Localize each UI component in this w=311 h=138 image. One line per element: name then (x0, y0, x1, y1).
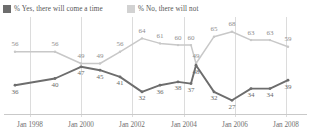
data-point (54, 51, 56, 53)
value-label: 49 (97, 53, 104, 60)
value-label: 61 (157, 33, 164, 40)
data-point (250, 39, 252, 41)
legend-item-no: % No, there will not (127, 2, 199, 15)
legend-label-no: % No, there will not (138, 5, 199, 13)
value-label: 32 (139, 95, 146, 102)
data-point (141, 37, 143, 39)
data-point (159, 84, 162, 87)
data-point (250, 87, 253, 90)
value-label: 34 (267, 92, 274, 99)
legend-label-yes: % Yes, there will come a time (14, 5, 103, 13)
value-label: 40 (52, 82, 59, 89)
value-label: 59 (285, 36, 292, 43)
data-point (190, 82, 193, 85)
value-label: 65 (211, 26, 218, 33)
data-point (99, 62, 101, 64)
value-label: 63 (248, 30, 255, 37)
value-label: 27 (229, 104, 236, 111)
data-point (269, 39, 271, 41)
data-point (231, 99, 234, 102)
value-label: 56 (12, 41, 19, 48)
value-label: 45 (97, 74, 104, 81)
value-label: 32 (211, 95, 218, 102)
data-point (287, 79, 290, 82)
x-axis-line (4, 114, 307, 115)
chart-legend: % Yes, there will come a time % No, ther… (0, 2, 311, 16)
data-point (80, 65, 83, 68)
x-tick-label: Jan 1998 (17, 121, 43, 129)
data-point (190, 44, 192, 46)
data-point (287, 46, 289, 48)
x-tick-label: Jan 2006 (222, 121, 248, 129)
data-point (14, 51, 16, 53)
x-tick-label: Jan 2004 (171, 121, 197, 129)
value-label: 49 (78, 53, 85, 60)
data-point (195, 64, 198, 67)
light-square-icon (127, 5, 135, 13)
data-point (54, 77, 57, 80)
data-point (269, 87, 272, 90)
data-point (159, 42, 161, 44)
x-tick-label: Jan 2008 (273, 121, 299, 129)
value-label: 56 (52, 41, 59, 48)
value-label: 36 (12, 89, 19, 96)
value-label: 56 (117, 41, 124, 48)
value-label: 36 (157, 89, 164, 96)
line-chart: % Yes, there will come a time % No, ther… (0, 0, 311, 138)
data-point (14, 84, 17, 87)
value-label: 60 (188, 35, 195, 42)
data-point (99, 69, 102, 72)
x-tick-label: Jan 2000 (68, 121, 94, 129)
data-point (119, 51, 121, 53)
data-point (177, 81, 180, 84)
data-point (177, 44, 179, 46)
x-tick-label: Jan 2002 (119, 121, 145, 129)
value-label: 64 (139, 28, 146, 35)
data-point (80, 62, 82, 64)
value-label: 38 (175, 85, 182, 92)
value-label: 41 (117, 80, 124, 87)
value-label: 68 (229, 21, 236, 28)
x-axis: Jan 1998Jan 2000Jan 2002Jan 2004Jan 2006… (0, 114, 311, 138)
data-point (213, 91, 216, 94)
plot-svg (0, 17, 311, 118)
legend-item-yes: % Yes, there will come a time (3, 2, 103, 15)
value-label: 60 (175, 35, 182, 42)
value-label: 48 (193, 69, 200, 76)
value-label: 34 (248, 92, 255, 99)
plot-area: 5656494956646160604965686363593640474541… (0, 17, 311, 118)
data-point (213, 36, 215, 38)
value-label: 63 (267, 30, 274, 37)
value-label: 47 (78, 70, 85, 77)
data-point (141, 91, 144, 94)
dark-square-icon (3, 5, 11, 13)
value-label: 37 (188, 87, 195, 94)
value-label: 39 (285, 84, 292, 91)
data-point (231, 31, 233, 33)
data-point (119, 76, 122, 79)
value-label: 49 (193, 53, 200, 60)
